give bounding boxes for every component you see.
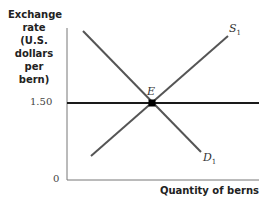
demand-label-sub: 1 <box>212 158 216 166</box>
demand-curve-d1 <box>83 31 201 152</box>
y-tick-1-50: 1.50 <box>30 96 52 107</box>
equilibrium-label-text: E <box>147 85 155 98</box>
demand-label-main: D <box>203 151 212 164</box>
supply-label: S1 <box>229 22 241 37</box>
equilibrium-point <box>149 100 156 107</box>
equilibrium-label: E <box>147 85 155 98</box>
supply-label-main: S <box>229 22 237 35</box>
y-axis-label: Exchange rate (U.S. dollars per bern) <box>8 8 60 86</box>
demand-label: D1 <box>203 151 216 166</box>
supply-curve-s1 <box>91 36 228 156</box>
supply-label-sub: 1 <box>237 29 241 37</box>
x-axis-label: Quantity of berns <box>160 185 259 196</box>
y-tick-0: 0 <box>53 173 59 184</box>
